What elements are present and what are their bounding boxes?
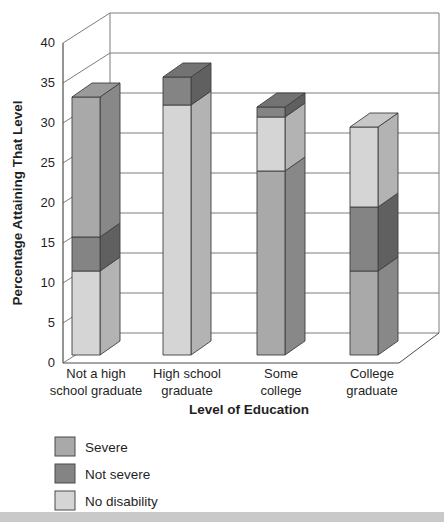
bar-front-face	[257, 171, 285, 355]
y-tick-label-15: 15	[41, 235, 55, 250]
y-tick-label-20: 20	[41, 195, 55, 210]
bar-side-face	[100, 257, 120, 355]
bar-side-face	[378, 113, 398, 207]
y-tick-labels: 0510152025303540	[41, 35, 55, 370]
bar-1-segment-no_disability	[163, 91, 211, 355]
legend-label-no-disability: No disability	[85, 494, 158, 509]
x-category-label-2: Somecollege	[260, 366, 301, 398]
legend-label-not-severe: Not severe	[85, 467, 150, 482]
bar-front-face	[163, 77, 191, 105]
bar-side-face	[100, 83, 120, 237]
y-tick-label-40: 40	[41, 35, 55, 50]
bar-front-face	[72, 237, 100, 271]
bar-0-segment-no_disability	[72, 257, 120, 355]
y-tick-label-10: 10	[41, 275, 55, 290]
bar-front-face	[350, 207, 378, 271]
legend: Severe Not severe No disability	[55, 437, 158, 510]
x-category-labels: Not a highschool graduateHigh schoolgrad…	[50, 366, 398, 398]
bar-front-face	[350, 271, 378, 355]
y-tick-label-5: 5	[48, 315, 55, 330]
bar-front-face	[72, 97, 100, 237]
legend-swatch-not-severe	[55, 464, 75, 483]
y-tick-label-35: 35	[41, 75, 55, 90]
legend-swatch-no-disability	[55, 491, 75, 510]
y-axis-title: Percentage Attaining That Level	[10, 100, 25, 305]
floor-right-edge	[399, 333, 439, 363]
y-tick-label-30: 30	[41, 115, 55, 130]
x-category-label-0: Not a highschool graduate	[50, 366, 143, 398]
bar-front-face	[350, 127, 378, 207]
gridline-left-35	[63, 53, 110, 83]
bars-group	[72, 63, 398, 355]
y-tick-label-25: 25	[41, 155, 55, 170]
x-category-label-3: Collegegraduate	[346, 366, 397, 398]
bar-0-segment-severe	[72, 83, 120, 237]
bar-front-face	[257, 107, 285, 117]
bar-front-face	[72, 271, 100, 355]
bar-front-face	[163, 105, 191, 355]
bar-side-face	[285, 157, 305, 355]
figure-education-disability: 0510152025303540 Not a highschool gradua…	[0, 0, 444, 522]
x-axis-title: Level of Education	[189, 402, 309, 417]
x-category-label-1: High schoolgraduate	[153, 366, 221, 398]
page-bottom-strip	[0, 512, 444, 522]
bar-3-segment-severe	[350, 257, 398, 355]
bar-side-face	[378, 257, 398, 355]
bar-front-face	[257, 117, 285, 171]
y-tick-label-0: 0	[48, 355, 55, 370]
bar-3-segment-no_disability	[350, 113, 398, 207]
gridline-left-40	[63, 13, 110, 43]
legend-label-severe: Severe	[85, 440, 128, 455]
legend-swatch-severe	[55, 437, 75, 456]
bar-side-face	[191, 91, 211, 355]
bar-2-segment-severe	[257, 157, 305, 355]
education-disability-3d-chart: 0510152025303540 Not a highschool gradua…	[0, 0, 444, 522]
